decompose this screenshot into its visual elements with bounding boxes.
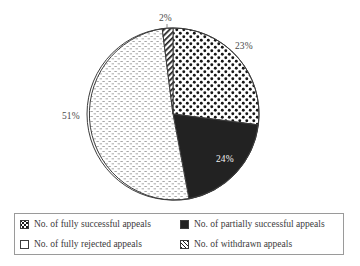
pie-chart-figure: 2% 23% 51% 24% No. of fully successful a… [0, 0, 360, 266]
legend-swatch-empty-icon [20, 240, 29, 249]
legend-label: No. of fully rejected appeals [34, 239, 142, 250]
legend-label: No. of partially successful appeals [194, 219, 325, 230]
legend-row: No. of fully rejected appeals No. of wit… [15, 234, 343, 254]
legend-label: No. of fully successful appeals [34, 219, 151, 230]
slice-value-label-partially-successful: 24% [216, 154, 234, 165]
legend-swatch-hatch-icon [180, 240, 189, 249]
pie-plot-area: 2% 23% 51% 24% [0, 0, 360, 210]
chart-legend: No. of fully successful appeals No. of p… [14, 213, 344, 255]
slice-value-label-withdrawn: 2% [159, 13, 172, 24]
slice-value-label-fully-successful: 23% [235, 41, 253, 52]
legend-item-partially-successful: No. of partially successful appeals [177, 214, 343, 234]
legend-item-fully-successful: No. of fully successful appeals [15, 214, 177, 234]
slice-value-label-fully-rejected: 51% [62, 111, 80, 122]
legend-swatch-dotted-icon [20, 220, 29, 229]
legend-item-fully-rejected: No. of fully rejected appeals [15, 234, 177, 254]
legend-row: No. of fully successful appeals No. of p… [15, 214, 343, 234]
legend-label: No. of withdrawn appeals [194, 239, 292, 250]
legend-item-withdrawn: No. of withdrawn appeals [177, 234, 343, 254]
pie-svg [0, 0, 360, 210]
legend-swatch-solid-icon [180, 220, 189, 229]
